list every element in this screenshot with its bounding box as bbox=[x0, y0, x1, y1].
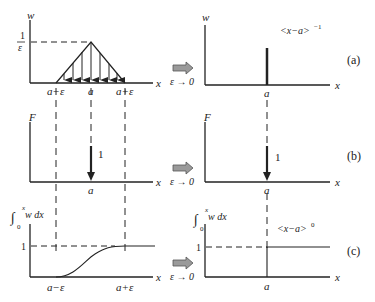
x-axis-label: x bbox=[334, 271, 340, 283]
force-magnitude: 1 bbox=[275, 151, 281, 163]
x-tick-a-plus-eps: a+ε bbox=[116, 85, 134, 97]
panel-a-right: w x a <x−a> −1 (a) bbox=[202, 11, 360, 99]
right-arrow-icon bbox=[173, 162, 193, 174]
x-tick-a-plus-eps: a+ε bbox=[116, 281, 134, 293]
integral-sign-icon: ∫ bbox=[10, 210, 16, 226]
x-tick-a-minus-eps: a−ε bbox=[47, 281, 65, 293]
transition-arrow-b: ε → 0 bbox=[170, 162, 194, 187]
down-arrow-icon bbox=[87, 172, 95, 181]
s-curve bbox=[56, 246, 155, 277]
y-axis-label: F bbox=[28, 111, 36, 123]
right-arrow-icon bbox=[173, 62, 193, 74]
singularity-annotation: <x−a> bbox=[280, 25, 310, 36]
panel-c-left: ∫ x 0 w dx 1 a−ε a+ε x bbox=[10, 204, 161, 293]
distributed-load-arrows bbox=[64, 43, 117, 80]
transition-arrow-c: ε → 0 bbox=[170, 257, 194, 282]
x-axis-label: x bbox=[334, 79, 340, 91]
y-tick-numerator: 1 bbox=[20, 30, 25, 41]
x-axis-label: x bbox=[155, 77, 161, 89]
y-axis-label: F bbox=[203, 111, 211, 123]
x-tick-a: a bbox=[264, 184, 270, 196]
row-tag-b: (b) bbox=[347, 149, 361, 163]
x-tick-a: a bbox=[88, 85, 94, 97]
y-tick-denominator: ε bbox=[18, 42, 22, 53]
x-tick-a: a bbox=[264, 87, 270, 99]
integral-lower-limit: 0 bbox=[200, 225, 204, 233]
right-arrow-icon bbox=[173, 257, 193, 269]
singularity-exponent: −1 bbox=[314, 23, 322, 31]
x-tick-a: a bbox=[88, 184, 94, 196]
row-tag-c: (c) bbox=[347, 244, 360, 258]
panel-b-right: F x 1 a (b) bbox=[203, 111, 361, 196]
x-axis-label: x bbox=[334, 176, 340, 188]
integrand-label: w dx bbox=[25, 209, 44, 220]
singularity-exponent: 0 bbox=[311, 221, 315, 229]
singularity-annotation: <x−a> bbox=[277, 223, 307, 234]
integral-lower-limit: 0 bbox=[17, 223, 21, 231]
down-arrow-icon bbox=[263, 172, 271, 181]
panel-c-right: ∫ x 0 w dx 1 a x <x−a> 0 (c) bbox=[193, 206, 360, 292]
panel-a-left: w x 1 ε a−ε a a+ε bbox=[17, 9, 161, 97]
transition-arrow-a: ε → 0 bbox=[170, 62, 194, 87]
row-tag-a: (a) bbox=[347, 53, 360, 67]
y-tick-1: 1 bbox=[196, 242, 201, 253]
panel-b-left: F x 1 a bbox=[28, 111, 161, 196]
x-axis-label: x bbox=[155, 271, 161, 283]
integrand-label: w dx bbox=[208, 211, 227, 222]
y-axis-label: w bbox=[27, 9, 35, 21]
limit-label: ε → 0 bbox=[170, 76, 194, 87]
x-tick-a-minus-eps: a−ε bbox=[47, 85, 65, 97]
singularity-function-diagram: w x 1 ε a−ε a a+ε ε → 0 w x a bbox=[0, 0, 375, 302]
unit-step bbox=[267, 247, 330, 277]
limit-label: ε → 0 bbox=[170, 271, 194, 282]
y-tick-1: 1 bbox=[21, 241, 26, 252]
y-axis-label: w bbox=[202, 11, 210, 23]
limit-label: ε → 0 bbox=[170, 176, 194, 187]
force-magnitude: 1 bbox=[98, 148, 104, 160]
integral-sign-icon: ∫ bbox=[193, 212, 199, 228]
x-axis-label: x bbox=[155, 176, 161, 188]
x-tick-a: a bbox=[264, 280, 270, 292]
